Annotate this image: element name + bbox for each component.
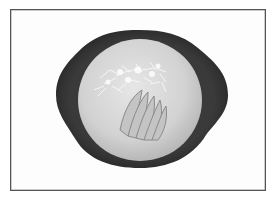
- soup-bowl-photo: [0, 0, 272, 199]
